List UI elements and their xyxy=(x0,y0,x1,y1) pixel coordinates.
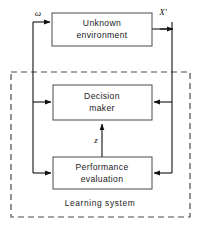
block-unknown-environment: Unknown environment xyxy=(52,13,152,46)
block-decision-maker: Decision maker xyxy=(53,85,152,120)
diagram-canvas: Unknown environment Decision maker Perfo… xyxy=(0,0,203,236)
learning-system-label: Learning system xyxy=(65,198,135,208)
signal-label-omega: ω xyxy=(35,8,41,18)
block-unknown-environment-label-2: environment xyxy=(76,30,127,40)
block-performance-evaluation: Performance evaluation xyxy=(53,157,152,189)
signal-label-z: z xyxy=(93,135,98,145)
signal-label-x-prime: X′ xyxy=(158,7,167,17)
block-unknown-environment-label-1: Unknown xyxy=(83,18,121,28)
block-performance-evaluation-label-1: Performance xyxy=(75,162,128,172)
block-performance-evaluation-label-2: evaluation xyxy=(81,174,124,184)
block-diagram: Unknown environment Decision maker Perfo… xyxy=(0,0,203,236)
block-decision-maker-label-1: Decision xyxy=(84,91,120,101)
block-decision-maker-label-2: maker xyxy=(89,103,115,113)
